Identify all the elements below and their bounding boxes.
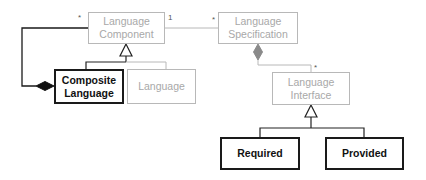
class-label-line: Component (99, 28, 153, 41)
multiplicity-component-one: 1 (168, 14, 172, 22)
class-language[interactable]: Language (127, 69, 196, 104)
generalization-to-component (86, 44, 166, 69)
class-label-line: Language (62, 87, 116, 100)
class-label-line: Language (288, 76, 335, 89)
class-composite-language[interactable]: Composite Language (54, 69, 124, 104)
class-label-line: Composite (62, 74, 116, 87)
class-label-line: Interface (288, 89, 335, 102)
class-label-line: Language (138, 80, 185, 93)
class-label-line: Language (99, 15, 153, 28)
class-label-line: Required (237, 147, 283, 160)
multiplicity-component-star: * (78, 14, 81, 22)
class-label-line: Provided (342, 147, 387, 160)
generalization-to-interface (260, 105, 364, 137)
class-provided[interactable]: Provided (325, 137, 404, 170)
class-required[interactable]: Required (220, 137, 300, 170)
class-label-line: Specification (228, 28, 288, 41)
class-language-interface[interactable]: Language Interface (272, 72, 350, 105)
multiplicity-interface-star: * (314, 64, 317, 72)
composition-specification-to-interface (254, 44, 312, 72)
class-language-component[interactable]: Language Component (88, 12, 165, 44)
class-language-specification[interactable]: Language Specification (218, 12, 298, 44)
multiplicity-specification-star: * (212, 16, 215, 24)
class-label-line: Language (228, 15, 288, 28)
